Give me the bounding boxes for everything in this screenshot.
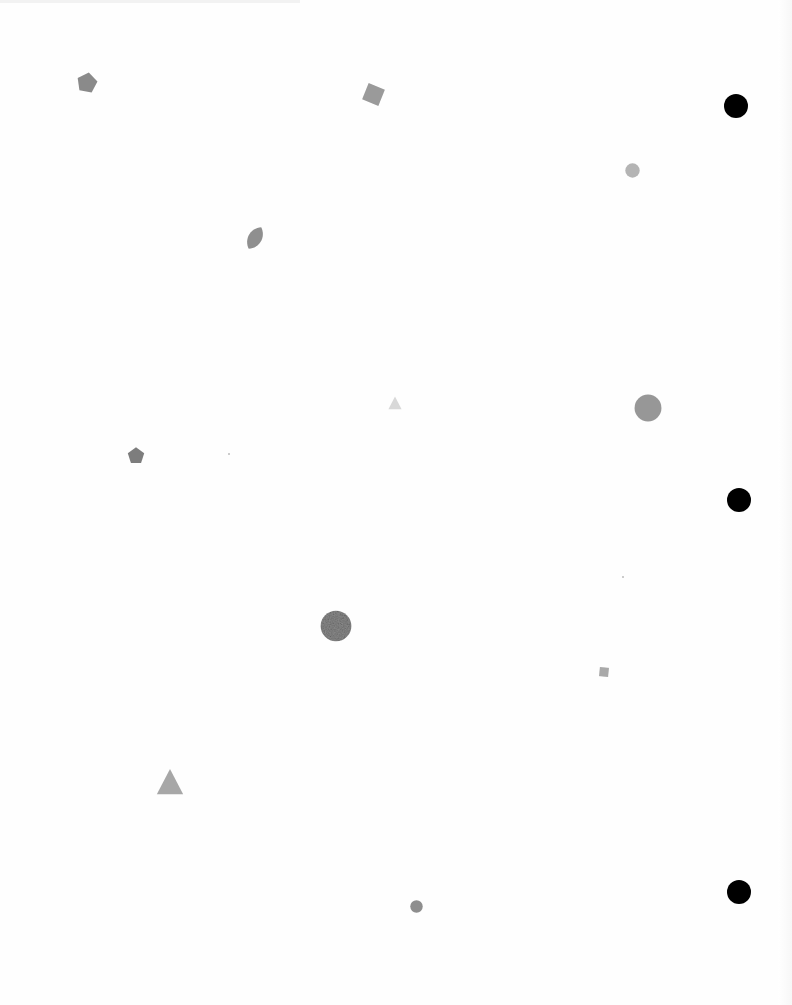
scanned-page — [0, 0, 792, 1005]
circle-shape — [625, 163, 640, 178]
scan-edge-top — [0, 0, 300, 3]
pentagon-shape — [74, 70, 99, 95]
punch-hole-middle — [727, 488, 751, 512]
dust-speck — [228, 453, 230, 455]
triangle-shape — [388, 396, 402, 410]
square-shape — [599, 667, 610, 678]
scan-edge-right — [778, 0, 792, 1005]
square-shape — [361, 82, 386, 107]
triangle-shape — [156, 768, 184, 796]
leaf-shape — [237, 220, 273, 256]
pentagon-shape — [127, 447, 145, 465]
punch-hole-top — [724, 94, 748, 118]
textured-circle-shape — [320, 610, 352, 642]
circle-shape — [410, 900, 423, 913]
circle-shape — [634, 394, 662, 422]
punch-hole-bottom — [727, 880, 751, 904]
dust-speck — [622, 576, 624, 578]
